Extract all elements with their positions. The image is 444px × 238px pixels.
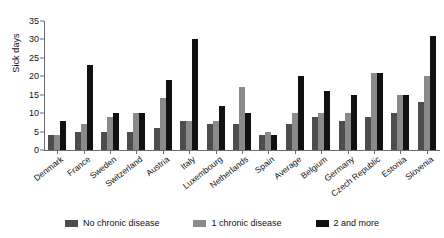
bar [219, 106, 225, 150]
bar-group [229, 21, 255, 150]
bar [166, 80, 172, 150]
bar-group [255, 21, 281, 150]
sick-days-bar-chart: Sick days 05101520253035 DenmarkFranceSw… [0, 0, 444, 238]
bar-group [123, 21, 149, 150]
bar [139, 113, 145, 150]
bar-group [308, 21, 334, 150]
bar [377, 73, 383, 150]
x-axis-tick-label: Luxembourg [218, 154, 224, 162]
legend-item[interactable]: 1 chronic disease [193, 218, 281, 228]
legend-label: 2 and more [334, 218, 380, 228]
bar-groups [44, 21, 440, 150]
x-axis-tick-label: Belgium [323, 154, 329, 162]
x-axis-tick-label: Czech Republic [376, 154, 382, 162]
legend-swatch [316, 220, 329, 227]
bar [403, 95, 409, 150]
bar-group [202, 21, 228, 150]
x-axis-tick-label: Netherlands [244, 154, 250, 162]
x-axis-tick-label: Sweden [112, 154, 118, 162]
x-axis-tick-label: Italy [191, 154, 197, 162]
x-axis-tick-label: Slovenia [429, 154, 435, 162]
bar-group [414, 21, 440, 150]
bar-group [282, 21, 308, 150]
legend-item[interactable]: No chronic disease [65, 218, 160, 228]
bar-group [334, 21, 360, 150]
legend-swatch [193, 220, 206, 227]
bar [271, 135, 277, 150]
plot-area: 05101520253035 [44, 21, 440, 150]
bar [324, 91, 330, 150]
bar-group [97, 21, 123, 150]
bar-group [150, 21, 176, 150]
x-axis-tick-label: Spain [270, 154, 276, 162]
bar-group [387, 21, 413, 150]
x-axis-tick-label: Denmark [59, 154, 65, 162]
bar [245, 113, 251, 150]
bar-group [70, 21, 96, 150]
x-axis-tick-label: Switzerland [138, 154, 144, 162]
bar [192, 39, 198, 150]
x-axis-tick-label: Average [297, 154, 303, 162]
y-axis-title: Sick days [11, 13, 21, 93]
bar [430, 36, 436, 150]
x-axis-tick-label: Germany [350, 154, 356, 162]
bar [87, 65, 93, 150]
legend-item[interactable]: 2 and more [316, 218, 380, 228]
x-axis-tick-label: Austria [165, 154, 171, 162]
bar [60, 121, 66, 150]
legend-label: No chronic disease [83, 218, 160, 228]
bar [298, 76, 304, 150]
x-axis-labels: DenmarkFranceSwedenSwitzerlandAustriaIta… [44, 152, 440, 198]
chart-legend: No chronic disease1 chronic disease2 and… [0, 218, 444, 228]
bar-group [361, 21, 387, 150]
x-axis-tick-label: France [86, 154, 92, 162]
bar-group [44, 21, 70, 150]
legend-swatch [65, 220, 78, 227]
bar [113, 113, 119, 150]
legend-label: 1 chronic disease [211, 218, 281, 228]
x-axis-tick-label: Estonia [402, 154, 408, 162]
bar-group [176, 21, 202, 150]
bar [351, 95, 357, 150]
